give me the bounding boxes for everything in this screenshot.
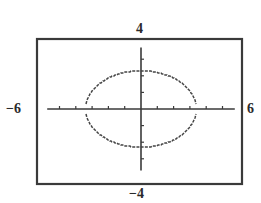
graph-window xyxy=(0,0,261,203)
viewing-window-frame xyxy=(37,39,242,184)
